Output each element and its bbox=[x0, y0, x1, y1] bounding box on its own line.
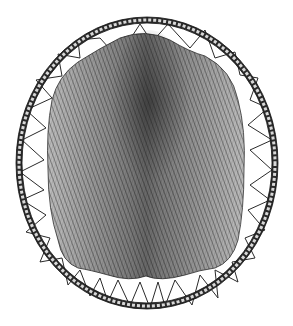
beaver-pelt-on-hoop-illustration bbox=[0, 0, 293, 326]
pelt bbox=[48, 30, 245, 279]
illustration bbox=[0, 0, 293, 326]
